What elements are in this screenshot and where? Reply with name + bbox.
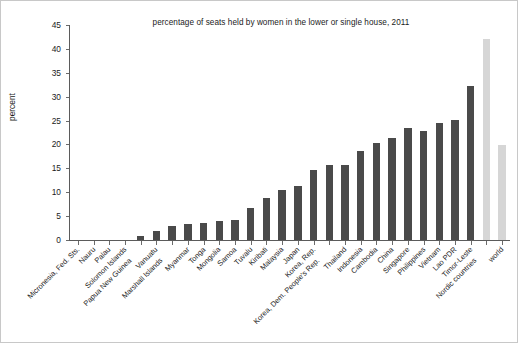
x-axis-tick-mark [219, 241, 220, 245]
bar [278, 190, 285, 240]
bar [184, 224, 191, 240]
bar [388, 138, 395, 240]
x-axis-tick-mark [314, 241, 315, 245]
y-axis-tick-label: 10 [52, 187, 61, 197]
x-axis-tick-mark [376, 241, 377, 245]
y-axis-tick-label: 20 [52, 139, 61, 149]
bar [247, 208, 254, 240]
x-axis-tick-mark [109, 241, 110, 245]
bar [263, 198, 270, 240]
x-axis-tick-mark [172, 241, 173, 245]
bar [498, 145, 505, 240]
x-axis-tick-mark [424, 241, 425, 245]
plot-area [70, 25, 510, 240]
bar [404, 128, 411, 240]
y-axis-tick-label: 45 [52, 20, 61, 30]
x-axis-tick-mark [235, 241, 236, 245]
x-axis-tick-mark [188, 241, 189, 245]
x-axis-tick-mark [392, 241, 393, 245]
x-axis-tick-mark [345, 241, 346, 245]
y-axis-tick: 15 [1, 163, 70, 173]
x-axis-tick-mark [156, 241, 157, 245]
bar [436, 123, 443, 240]
x-axis-tick-mark [266, 241, 267, 245]
bar [357, 151, 364, 240]
y-axis-tick-label: 40 [52, 44, 61, 54]
bar [373, 143, 380, 240]
y-axis-tick: 20 [1, 139, 70, 149]
bar [294, 186, 301, 240]
chart-figure: percentage of seats held by women in the… [0, 0, 518, 343]
bar [310, 170, 317, 240]
x-axis-tick-mark [329, 241, 330, 245]
y-axis-tick: 10 [1, 187, 70, 197]
bar [467, 86, 474, 240]
y-axis-tick: 5 [1, 211, 70, 221]
x-axis-tick-mark [361, 241, 362, 245]
x-axis-tick-mark [282, 241, 283, 245]
x-axis-tick-mark [298, 241, 299, 245]
bar [231, 220, 238, 240]
y-axis-tick-label: 35 [52, 68, 61, 78]
x-axis-tick-mark [502, 241, 503, 245]
y-axis-tick: 25 [1, 116, 70, 126]
bar [483, 39, 490, 240]
x-axis-tick-mark [408, 241, 409, 245]
x-axis-tick-mark [455, 241, 456, 245]
x-axis-tick-mark [78, 241, 79, 245]
bar [168, 226, 175, 240]
bar [451, 120, 458, 240]
x-axis-tick-mark [125, 241, 126, 245]
bar [216, 221, 223, 240]
y-axis-tick-label: 15 [52, 163, 61, 173]
y-axis-tick: 40 [1, 44, 70, 54]
bar [326, 165, 333, 240]
x-axis-tick-mark [94, 241, 95, 245]
x-axis-tick-mark [471, 241, 472, 245]
x-axis-line [69, 240, 510, 241]
y-axis-tick-label: 25 [52, 116, 61, 126]
bar [153, 231, 160, 240]
y-axis-tick: 35 [1, 68, 70, 78]
x-axis-tick-mark [439, 241, 440, 245]
bar [200, 223, 207, 240]
y-axis-tick-label: 30 [52, 92, 61, 102]
bar [420, 131, 427, 240]
y-axis-tick: 45 [1, 20, 70, 30]
x-axis-tick-mark [141, 241, 142, 245]
x-axis-tick-label: world [487, 245, 506, 264]
bar [137, 236, 144, 240]
y-axis-tick: 0 [1, 235, 70, 245]
bar [341, 165, 348, 240]
y-axis-tick-label: 5 [56, 211, 61, 221]
y-axis-tick: 30 [1, 92, 70, 102]
x-axis-tick-mark [204, 241, 205, 245]
y-axis-tick-label: 0 [56, 235, 61, 245]
x-axis-tick-mark [486, 241, 487, 245]
x-axis-tick-mark [251, 241, 252, 245]
